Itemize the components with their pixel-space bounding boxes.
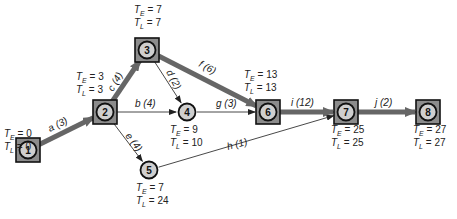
time-value: 0 [26,128,32,139]
event-node-8: 8 [416,100,440,124]
time-label-tl: TL = 7 [134,17,161,30]
time-value: 13 [266,69,278,80]
time-value: 25 [352,137,364,148]
time-label-tl: TL = 25 [331,137,364,150]
node-number: 3 [144,45,150,56]
time-value: 27 [434,137,446,148]
time-value: 3 [97,84,103,95]
time-label-te: TE = 25 [331,124,365,137]
activity-label-i: i (12) [291,97,314,108]
time-value: 13 [265,82,277,93]
event-node-4: 4 [179,104,196,121]
activity-label-d: d (2) [164,68,183,91]
time-value: 7 [158,182,164,193]
time-value: 7 [156,4,162,15]
event-node-5: 5 [141,162,158,179]
node-number: 7 [343,107,349,118]
node-number: 2 [102,107,108,118]
pert-network-diagram: a (3)b (4)c (4)d (2)e (4)f (6)g (3)h (1)… [0,0,457,219]
time-value: 25 [353,124,365,135]
time-label-te: TE = 7 [136,182,164,195]
time-value: 10 [191,137,203,148]
node-number: 5 [146,165,152,176]
event-node-2: 2 [93,100,117,124]
activity-label-b: b (4) [135,98,156,109]
time-label-te: TE = 3 [76,71,104,84]
event-node-7: 7 [334,100,358,124]
time-label-tl: TL = 27 [413,137,446,150]
time-value: 9 [192,124,198,135]
time-value: 24 [157,195,169,206]
activity-label-g: g (3) [216,98,237,109]
node-number: 8 [425,107,431,118]
activity-label-e: e (4) [123,130,144,153]
time-label-tl: TL = 10 [170,137,203,150]
node-number: 4 [184,107,190,118]
time-value: 3 [98,71,104,82]
time-label-te: TE = 27 [413,124,447,137]
event-node-3: 3 [135,38,159,62]
time-label-tl: TL = 24 [136,195,169,208]
time-label-te: TE = 9 [170,124,198,137]
event-node-6: 6 [256,100,280,124]
time-label-te: TE = 7 [134,4,162,17]
time-label-te: TE = 13 [244,69,278,82]
activity-label-f: f (6) [197,58,218,76]
time-value: 0 [25,141,31,152]
activity-label-h: h (1) [226,136,249,152]
time-label-tl: TL = 13 [244,82,277,95]
time-label-tl: TL = 3 [76,84,103,97]
activity-label-j: j (2) [373,97,392,108]
time-value: 27 [435,124,447,135]
time-value: 7 [155,17,161,28]
node-number: 6 [265,107,271,118]
